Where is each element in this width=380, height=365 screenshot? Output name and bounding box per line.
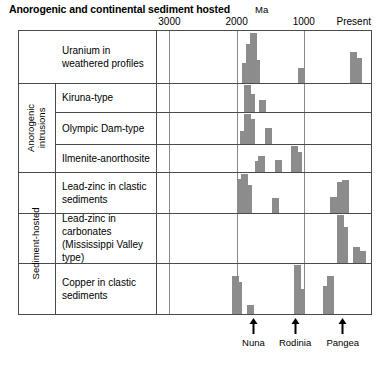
panel-plot-1 xyxy=(156,31,371,83)
row-label-text: Copper in clasticsediments xyxy=(62,276,136,302)
bar xyxy=(247,305,254,314)
bar xyxy=(298,289,305,314)
bar xyxy=(298,68,305,83)
annotation-label-pangea: Pangea xyxy=(326,337,359,348)
panel-plot-6 xyxy=(156,213,371,263)
bar xyxy=(295,152,302,172)
arrow-icon-nuna xyxy=(249,318,258,334)
bar xyxy=(327,276,334,314)
axis-tick-2000: 2000 xyxy=(226,16,248,27)
panel-plot-5 xyxy=(156,172,371,213)
bar xyxy=(265,128,272,144)
row-label-text: Olympic Dam-type xyxy=(62,122,144,135)
bar xyxy=(248,119,255,144)
bar xyxy=(259,100,266,112)
row-label-4: Ilmenite-anorthosite xyxy=(55,144,156,172)
row-label-text: Lead-zinc in clasticsediments xyxy=(62,180,146,206)
annotation-label-nuna: Nuna xyxy=(242,337,265,348)
row-label-text: Lead-zinc in carbonates(Mississippi Vall… xyxy=(62,212,156,264)
bar xyxy=(359,251,366,263)
bar xyxy=(342,180,349,213)
arrow-icon-pangea xyxy=(338,318,347,334)
annotation-label-rodinia: Rodinia xyxy=(279,337,311,348)
bar xyxy=(275,160,282,172)
bar xyxy=(355,58,362,83)
bar xyxy=(248,94,255,112)
bar xyxy=(258,156,265,172)
panel-plot-2 xyxy=(156,83,371,112)
bar xyxy=(272,198,279,213)
row-label-3: Olympic Dam-type xyxy=(55,112,156,144)
arrow-shaft xyxy=(342,324,344,334)
group-label-sediment-hosted: Sediment-hosted xyxy=(19,172,55,314)
bar xyxy=(341,227,348,263)
panel-plot-4 xyxy=(156,144,371,172)
group-label-text: Anorogenic intrusions xyxy=(26,103,48,151)
row-label-5: Lead-zinc in clasticsediments xyxy=(55,172,156,213)
row-label-6: Lead-zinc in carbonates(Mississippi Vall… xyxy=(55,213,156,263)
row-label-text: Kiruna-type xyxy=(62,91,113,104)
arrow-shaft xyxy=(252,324,254,334)
axis-tick-1000: 1000 xyxy=(293,16,315,27)
row-label-2: Kiruna-type xyxy=(55,83,156,112)
panel-plot-7 xyxy=(156,263,371,314)
bar xyxy=(253,60,260,83)
row-label-text: Ilmenite-anorthosite xyxy=(62,152,150,165)
group-label-text: Sediment-hosted xyxy=(32,207,43,279)
panel-plot-3 xyxy=(156,112,371,144)
figure-title: Anorogenic and continental sediment host… xyxy=(9,3,230,15)
row-label-text: Uranium inweathered profiles xyxy=(62,44,144,70)
row-label-7: Copper in clasticsediments xyxy=(55,263,156,314)
axis-tick-present: Present xyxy=(337,16,371,27)
figure-root: Anorogenic and continental sediment host… xyxy=(0,0,380,365)
chart-frame: Anorogenic intrusionsSediment-hostedUran… xyxy=(18,30,372,315)
bar xyxy=(235,282,242,314)
arrow-icon-rodinia xyxy=(291,318,300,334)
axis-unit-label: Ma xyxy=(255,4,268,15)
bar xyxy=(245,185,252,213)
row-label-1: Uranium inweathered profiles xyxy=(55,31,156,83)
axis-tick-3000: 3000 xyxy=(158,16,180,27)
arrow-shaft xyxy=(294,324,296,334)
group-label-anorogenic-intrusions: Anorogenic intrusions xyxy=(19,83,55,172)
